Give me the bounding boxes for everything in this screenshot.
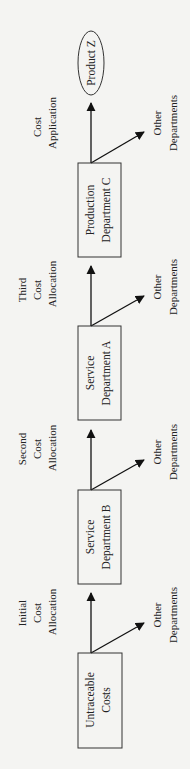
step-label-line2: Application [46,97,58,149]
production-c-line2: Department C [100,177,113,242]
step-label-line3: Allocation [46,424,58,471]
service-b-line2: Department B [100,504,113,569]
arrow-service-b-to-other-departments [91,460,144,490]
other-departments-line2: Departments [167,259,179,315]
step-label-line1: Cost [31,117,43,137]
cost-allocation-diagram: Product Z Cost Application Other Departm… [0,0,190,769]
step-label-line1: Initial [16,600,28,626]
step-label-cost-application: Cost Application [31,97,58,149]
other-departments-from-untraceable: Other Departments [151,587,179,643]
other-departments-line1: Other [151,439,163,464]
node-untraceable-costs: Untraceable Costs [78,653,122,748]
other-departments-from-service-a: Other Departments [151,259,179,315]
arrow-production-c-to-other-departments [91,132,144,163]
step-label-third-cost-allocation: Third Cost Allocation [16,260,58,307]
step-label-line1: Second [16,432,28,465]
step-label-initial-cost-allocation: Initial Cost Allocation [16,588,58,635]
product-z-label: Product Z [85,40,97,86]
node-service-department-b: Service Department B [78,490,121,584]
production-c-line1: Production [84,185,96,236]
node-production-department-c: Production Department C [78,163,121,257]
node-product-z: Product Z [78,31,104,95]
service-a-line1: Service [84,356,96,390]
service-b-line1: Service [84,520,96,554]
node-service-department-a: Service Department A [78,326,121,420]
step-label-line2: Cost [31,603,43,623]
step-label-line2: Cost [31,439,43,459]
other-departments-line1: Other [151,110,163,135]
other-departments-line2: Departments [167,424,179,480]
other-departments-line1: Other [151,602,163,627]
step-label-line3: Allocation [46,588,58,635]
other-departments-line1: Other [151,274,163,299]
untraceable-line1: Untraceable [84,672,96,728]
other-departments-from-service-b: Other Departments [151,424,179,480]
step-label-line3: Allocation [46,260,58,307]
arrow-untraceable-to-other-departments [91,623,144,653]
untraceable-line2: Costs [100,687,112,713]
step-label-line1: Third [16,277,28,302]
service-a-line2: Department A [100,340,113,406]
step-label-line2: Cost [31,280,43,300]
other-departments-from-production-c: Other Departments [151,95,179,151]
other-departments-line2: Departments [167,587,179,643]
step-label-second-cost-allocation: Second Cost Allocation [16,424,58,471]
arrow-service-a-to-other-departments [91,296,144,326]
other-departments-line2: Departments [167,95,179,151]
